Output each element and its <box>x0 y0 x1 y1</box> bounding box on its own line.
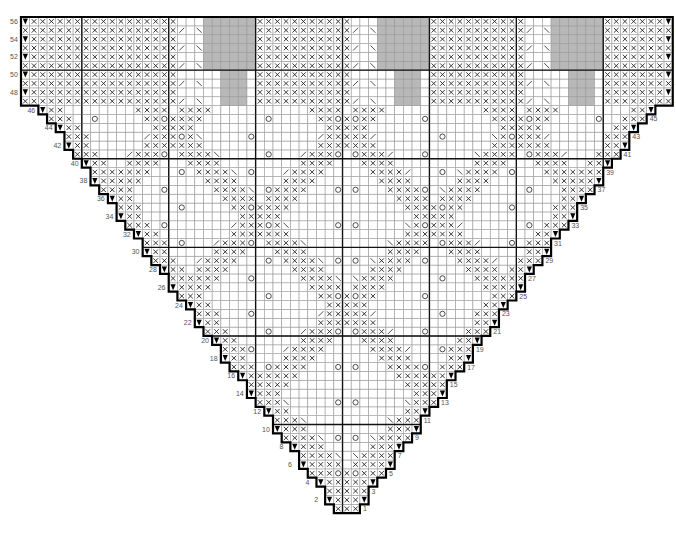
row-number-label: 3 <box>372 488 376 496</box>
row-number-label: 28 <box>149 266 157 274</box>
row-number-label: 5 <box>389 470 393 478</box>
row-number-label: 22 <box>184 319 192 327</box>
row-number-label: 15 <box>450 381 458 389</box>
row-number-label: 52 <box>10 53 18 61</box>
row-number-label: 42 <box>53 142 61 150</box>
row-number-label: 39 <box>606 169 614 177</box>
row-number-label: 32 <box>123 231 131 239</box>
row-number-label: 24 <box>175 302 183 310</box>
row-number-label: 26 <box>158 284 166 292</box>
row-number-label: 30 <box>132 248 140 256</box>
row-number-label: 43 <box>632 133 640 141</box>
row-number-label: 21 <box>493 328 501 336</box>
row-number-label: 36 <box>97 195 105 203</box>
row-number-label: 18 <box>210 355 218 363</box>
row-number-label: 33 <box>571 222 579 230</box>
row-number-label: 17 <box>467 364 475 372</box>
row-number-label: 14 <box>236 390 244 398</box>
row-number-label: 46 <box>27 107 35 115</box>
row-number-label: 12 <box>253 408 261 416</box>
row-number-label: 7 <box>398 452 402 460</box>
row-number-label: 56 <box>10 18 18 26</box>
row-number-label: 38 <box>80 177 88 185</box>
row-number-label: 20 <box>201 337 209 345</box>
chart-grid <box>0 0 676 541</box>
row-number-label: 40 <box>71 160 79 168</box>
row-number-label: 2 <box>314 496 318 504</box>
row-number-label: 44 <box>45 124 53 132</box>
row-number-label: 4 <box>305 479 309 487</box>
row-number-label: 1 <box>363 505 367 513</box>
row-number-label: 41 <box>624 151 632 159</box>
row-number-label: 6 <box>288 461 292 469</box>
row-number-label: 29 <box>545 257 553 265</box>
row-number-label: 16 <box>227 372 235 380</box>
row-number-label: 54 <box>10 36 18 44</box>
row-number-label: 31 <box>554 240 562 248</box>
row-number-label: 34 <box>106 213 114 221</box>
row-number-label: 48 <box>10 89 18 97</box>
row-number-label: 50 <box>10 71 18 79</box>
row-number-label: 23 <box>502 310 510 318</box>
row-number-label: 27 <box>528 275 536 283</box>
row-number-label: 10 <box>262 426 270 434</box>
row-number-label: 8 <box>279 443 283 451</box>
row-number-label: 9 <box>415 434 419 442</box>
row-number-label: 45 <box>650 115 658 123</box>
row-number-label: 25 <box>519 293 527 301</box>
row-number-label: 19 <box>476 346 484 354</box>
row-number-label: 35 <box>580 204 588 212</box>
row-number-label: 13 <box>441 399 449 407</box>
knitting-chart <box>0 0 676 541</box>
row-number-label: 11 <box>424 417 431 425</box>
row-number-label: 37 <box>598 186 606 194</box>
